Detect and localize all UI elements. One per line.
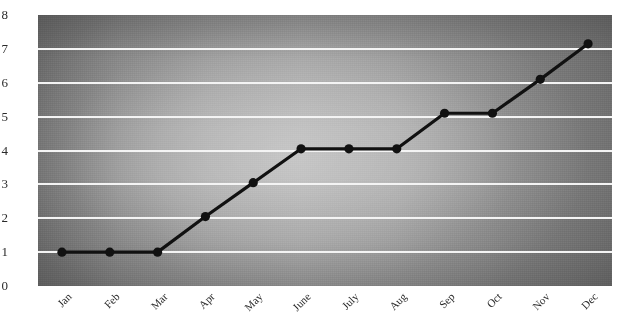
x-axis-tick-label: May xyxy=(212,291,265,317)
data-point-marker xyxy=(583,39,592,48)
x-axis-tick-label: Oct xyxy=(451,291,504,317)
data-point-marker xyxy=(57,248,66,257)
x-axis-tick-label: Feb xyxy=(68,291,121,317)
data-series xyxy=(38,15,612,286)
y-axis-tick-label: 2 xyxy=(0,211,8,224)
y-axis-tick-label: 5 xyxy=(0,110,8,123)
data-point-marker xyxy=(249,178,258,187)
data-point-marker xyxy=(536,75,545,84)
x-axis-tick-label: Mar xyxy=(116,291,169,317)
x-axis-tick-label: Sep xyxy=(403,291,456,317)
y-axis-tick-label: 1 xyxy=(0,245,8,258)
x-axis-tick-label: June xyxy=(260,291,313,317)
y-axis-tick-label: 6 xyxy=(0,76,8,89)
data-point-marker xyxy=(392,144,401,153)
data-point-marker xyxy=(344,144,353,153)
line-chart: 012345678 JanFebMarAprMayJuneJulyAugSepO… xyxy=(0,0,629,317)
y-axis-tick-label: 4 xyxy=(0,144,8,157)
y-axis-tick-label: 7 xyxy=(0,42,8,55)
x-axis-tick-label: Aug xyxy=(355,291,408,317)
data-point-marker xyxy=(488,109,497,118)
series-line xyxy=(62,44,588,252)
x-axis-tick-label: Nov xyxy=(499,291,552,317)
y-axis-tick-label: 3 xyxy=(0,177,8,190)
x-axis-tick-label: Jan xyxy=(21,291,74,317)
data-point-marker xyxy=(201,212,210,221)
x-axis-tick-label: Dec xyxy=(547,291,600,317)
data-point-marker xyxy=(296,144,305,153)
data-point-marker xyxy=(440,109,449,118)
y-axis-tick-label: 8 xyxy=(0,8,8,21)
data-point-marker xyxy=(105,248,114,257)
data-point-marker xyxy=(153,248,162,257)
x-axis-tick-labels: JanFebMarAprMayJuneJulyAugSepOctNovDec xyxy=(0,291,629,317)
x-axis-tick-label: July xyxy=(308,291,361,317)
x-axis-tick-label: Apr xyxy=(164,291,217,317)
